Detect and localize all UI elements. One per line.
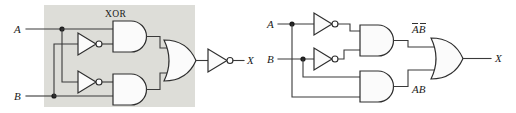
right-wire-b-to-andbot: [303, 59, 360, 77]
right-circuit: A B: [266, 13, 503, 102]
figure-root: XOR A B: [0, 0, 516, 113]
right-label-notanotb: AB: [411, 23, 426, 35]
right-and-gate-top-body: [360, 25, 394, 56]
right-output-label-x: X: [494, 52, 503, 64]
right-or-gate: [431, 38, 463, 79]
left-and-gate-top-body: [113, 21, 147, 52]
right-and-gate-top: [360, 25, 394, 56]
right-or-gate-body: [431, 38, 463, 79]
right-wire-andtop-to-or: [394, 41, 435, 48]
right-inverter-top: [314, 13, 338, 35]
right-inverter-bottom-triangle: [314, 48, 332, 70]
left-input-label-b: B: [14, 90, 21, 102]
left-inverter-top-bubble: [96, 41, 102, 47]
right-inverter-top-bubble: [332, 21, 338, 27]
left-and-gate-top: [113, 21, 147, 52]
left-inverter-output: [208, 49, 233, 72]
left-input-label-a: A: [13, 23, 21, 35]
left-inverter-output-bubble: [227, 58, 233, 64]
right-wire-bbar-to-andtop: [338, 50, 360, 59]
right-and-gate-bottom-body: [360, 71, 394, 102]
right-input-label-a: A: [266, 18, 274, 30]
right-inverter-bottom: [314, 48, 338, 70]
left-and-gate-bottom-body: [113, 74, 147, 105]
left-output-label-x: X: [246, 54, 255, 66]
right-label-ab: AB: [411, 83, 426, 95]
right-and-gate-bottom: [360, 71, 394, 102]
left-circuit: XOR A B: [13, 5, 255, 107]
right-inverter-top-triangle: [314, 13, 332, 35]
left-inverter-output-triangle: [208, 49, 227, 72]
circuit-diagram-svg: XOR A B: [0, 0, 516, 113]
right-input-label-b: B: [267, 53, 274, 65]
right-wire-abar-to-andtop: [338, 24, 360, 31]
xor-panel-label: XOR: [105, 9, 127, 19]
left-and-gate-bottom: [113, 74, 147, 105]
left-inverter-bottom-bubble: [96, 79, 102, 85]
right-label-notanotb-text: AB: [411, 23, 426, 35]
right-inverter-bottom-bubble: [332, 56, 338, 62]
